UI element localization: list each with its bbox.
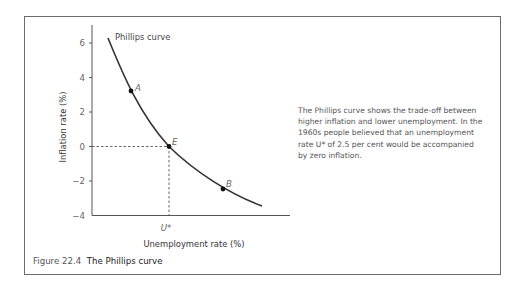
- svg-text:2: 2: [80, 107, 85, 117]
- svg-text:0: 0: [80, 142, 85, 152]
- description-line: by zero inflation.: [298, 150, 498, 161]
- figure-title: The Phillips curve: [87, 256, 163, 266]
- svg-text:−4: −4: [72, 211, 85, 221]
- point-e-label: E: [172, 137, 178, 147]
- point-b-label: B: [226, 179, 232, 189]
- y-axis-title: Inflation rate (%): [58, 91, 68, 162]
- description-line: The Phillips curve shows the trade-off b…: [298, 105, 498, 116]
- figure-caption: Figure 22.4 The Phillips curve: [33, 256, 162, 266]
- x-tick-label-ustar: U*: [161, 223, 172, 233]
- svg-text:4: 4: [80, 73, 85, 83]
- svg-text:−2: −2: [72, 176, 85, 186]
- curve-label: Phillips curve: [115, 32, 170, 42]
- phillips-curve-line: [108, 38, 262, 206]
- description-line: rate U* of 2.5 per cent would be accompa…: [298, 139, 498, 150]
- figure-number: Figure 22.4: [33, 256, 81, 266]
- y-tick-labels: 6 4 2 0 −2 −4: [72, 38, 85, 221]
- svg-text:6: 6: [80, 38, 85, 48]
- description-line: higher inflation and lower unemployment.…: [298, 116, 498, 127]
- x-axis-title: Unemployment rate (%): [143, 239, 244, 249]
- figure-description: The Phillips curve shows the trade-off b…: [298, 105, 498, 161]
- point-a-label: A: [134, 83, 141, 93]
- description-line: 1960s people believed that an unemployme…: [298, 127, 498, 138]
- point-a: [129, 89, 134, 94]
- point-e: [167, 144, 172, 149]
- point-b: [221, 187, 226, 192]
